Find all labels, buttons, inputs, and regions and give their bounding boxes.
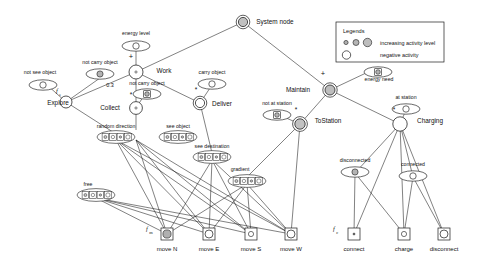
disconnect-action-node[interactable] xyxy=(438,228,450,240)
see-destination-label: see destination xyxy=(195,143,230,149)
maintain-label: Maintain xyxy=(286,86,311,93)
charge-label: charge xyxy=(395,246,414,252)
carry-object-node[interactable] xyxy=(198,79,226,89)
gain-label-fc: fc xyxy=(333,225,338,235)
move-s-label: move S xyxy=(241,246,261,252)
connected-label: connected xyxy=(401,161,425,167)
collect-label: Collect xyxy=(100,104,120,111)
not-carry-object-square-label: not carry object xyxy=(129,80,165,86)
tostation-operator-label: * xyxy=(295,106,298,113)
legend-label-increasing: increasing activity level xyxy=(380,40,435,46)
diagram-canvas: System nodeWorkExploreCollectDeliverMain… xyxy=(0,0,483,256)
not-see-object-label: not see object xyxy=(24,69,57,75)
not-carry-object-square-node[interactable] xyxy=(133,89,161,99)
tostation-label: ToStation xyxy=(315,117,342,124)
move-n-action-node[interactable] xyxy=(161,228,173,240)
gradient-label: gradient xyxy=(231,166,250,172)
maintain-node[interactable] xyxy=(323,83,337,97)
energy-level-label: energy level xyxy=(122,30,150,36)
behaviour-network-diagram: System nodeWorkExploreCollectDeliverMain… xyxy=(0,0,483,256)
carry-object-label: carry object xyxy=(199,69,226,75)
move-e-action-node[interactable] xyxy=(203,228,215,240)
see-destination-node[interactable] xyxy=(193,151,231,164)
move-w-label: move W xyxy=(280,246,302,252)
not-at-station-label: not at station xyxy=(262,100,292,106)
disconnected-node[interactable] xyxy=(341,167,369,177)
connect-action-node[interactable] xyxy=(348,228,360,240)
legend-label-negative: negative activity xyxy=(380,52,419,58)
move-s-action-node[interactable] xyxy=(245,228,257,240)
connect-label: connect xyxy=(343,246,364,252)
legend-title: Legends xyxy=(343,28,365,34)
not-carry-object-node[interactable] xyxy=(86,69,114,79)
disconnected-label: disconnected xyxy=(340,157,371,163)
move-n-label: move N xyxy=(157,246,178,252)
gradient-node[interactable] xyxy=(228,175,266,188)
not-see-object-node[interactable] xyxy=(29,80,57,90)
random-direction-node[interactable] xyxy=(97,131,135,144)
svg-text:c: c xyxy=(336,230,338,235)
charging-label: Charging xyxy=(417,117,443,125)
medium-gray-circle-icon xyxy=(353,40,359,46)
free-node[interactable] xyxy=(77,189,115,202)
work-label: Work xyxy=(157,67,173,74)
small-gray-circle-icon xyxy=(344,40,348,44)
move-e-label: move E xyxy=(199,246,219,252)
maintain-operator-label: + xyxy=(321,69,326,78)
at-station-label: at station xyxy=(395,94,416,100)
tostation-node[interactable] xyxy=(293,117,308,132)
large-white-circle-icon xyxy=(342,51,350,59)
disconnect-label: disconnect xyxy=(430,246,459,252)
system-node-label: System node xyxy=(256,18,294,26)
work-node[interactable] xyxy=(129,65,143,79)
connected-node[interactable] xyxy=(399,171,427,181)
not-carry-object-label: not carry object xyxy=(82,59,118,65)
see-object-node[interactable] xyxy=(159,131,197,144)
weight-label-03: 0.3 xyxy=(106,82,114,88)
deliver-operator-label: * xyxy=(195,86,198,93)
not-at-station-node[interactable] xyxy=(263,110,291,120)
collect-node[interactable] xyxy=(130,102,143,115)
gain-label-fe: fe xyxy=(56,87,61,97)
large-gray-circle-icon xyxy=(363,38,371,46)
random-direction-label: random direction xyxy=(97,123,136,129)
deliver-node[interactable] xyxy=(193,96,207,110)
at-station-node[interactable] xyxy=(392,104,420,114)
charging-node[interactable] xyxy=(393,117,407,131)
move-w-action-node[interactable] xyxy=(285,228,297,240)
svg-text:e: e xyxy=(59,92,61,97)
explore-label: Explore xyxy=(47,99,69,107)
svg-text:m: m xyxy=(149,230,153,235)
work-operator-label: + xyxy=(129,52,134,61)
charge-action-node[interactable] xyxy=(398,228,410,240)
system-node[interactable] xyxy=(236,15,250,29)
see-object-label: see object xyxy=(166,123,190,129)
free-label: free xyxy=(84,181,93,187)
legend: Legends increasing activity level negati… xyxy=(336,22,444,62)
energy-need-label: energy need xyxy=(365,76,394,82)
energy-level-node[interactable] xyxy=(122,41,150,51)
deliver-label: Deliver xyxy=(212,100,233,107)
collect-operator-label: * xyxy=(130,91,133,98)
